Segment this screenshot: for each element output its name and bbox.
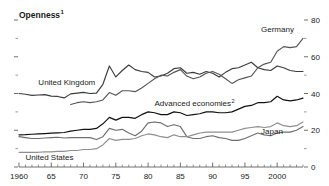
chart-svg: Openness 1 020406080 1960657075808590952… bbox=[0, 0, 329, 186]
svg-text:1960: 1960 bbox=[10, 172, 28, 181]
openness-chart-figure: Openness 1 020406080 1960657075808590952… bbox=[0, 0, 329, 186]
series-label-germany: Germany bbox=[261, 25, 294, 34]
svg-text:85: 85 bbox=[176, 172, 185, 181]
chart-title-group: Openness 1 bbox=[19, 9, 65, 20]
left-axis-tick-marks bbox=[14, 20, 18, 167]
y-axis-tick-labels: 020406080 bbox=[311, 16, 320, 172]
svg-text:2000: 2000 bbox=[268, 172, 286, 181]
series-label-united-kingdom: United Kingdom bbox=[38, 78, 95, 87]
title-footnote-marker: 1 bbox=[61, 9, 65, 15]
svg-text:90: 90 bbox=[208, 172, 217, 181]
svg-text:60: 60 bbox=[311, 53, 320, 62]
x-axis-tick-labels: 1960657075808590952000 bbox=[10, 172, 287, 181]
series-label-advanced-economies: Advanced economies bbox=[155, 99, 232, 108]
svg-text:20: 20 bbox=[311, 126, 320, 135]
svg-text:65: 65 bbox=[47, 172, 56, 181]
svg-text:75: 75 bbox=[111, 172, 120, 181]
series-label-united-states: United States bbox=[25, 153, 73, 162]
page-title: Openness bbox=[19, 10, 60, 20]
series-line-germany bbox=[71, 38, 303, 104]
svg-text:80: 80 bbox=[311, 16, 320, 25]
svg-text:95: 95 bbox=[240, 172, 249, 181]
series-footnote-marker: 2 bbox=[232, 98, 235, 104]
right-axis-tick-marks bbox=[304, 20, 308, 167]
svg-text:40: 40 bbox=[311, 90, 320, 99]
svg-text:80: 80 bbox=[144, 172, 153, 181]
series-annotation-labels: United KingdomGermanyAdvanced economies2… bbox=[25, 25, 293, 162]
series-label-japan: Japan bbox=[261, 127, 283, 136]
svg-text:70: 70 bbox=[79, 172, 88, 181]
svg-text:0: 0 bbox=[311, 163, 316, 172]
